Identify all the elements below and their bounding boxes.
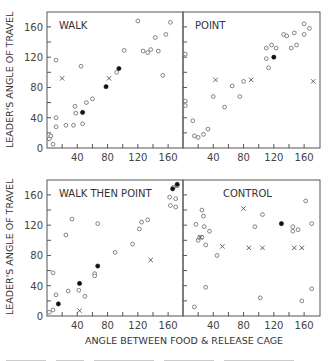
x-tick-label: 40: [71, 320, 84, 331]
panels-group: 408012016004080120160WALK4080120160POINT…: [24, 12, 320, 331]
data-point-open: [302, 22, 306, 26]
x-tick-label: 160: [295, 320, 314, 331]
figure: 408012016004080120160WALK4080120160POINT…: [0, 0, 332, 361]
data-point-open: [204, 243, 208, 247]
data-point-open: [258, 296, 262, 300]
data-point-open: [122, 48, 126, 52]
data-point-open: [264, 57, 268, 61]
data-point-open: [295, 43, 299, 47]
data-point-open: [202, 132, 206, 136]
panel-title: WALK: [59, 20, 88, 31]
data-point-open: [242, 79, 246, 83]
data-point-filled: [77, 281, 81, 285]
data-point-open: [261, 213, 265, 217]
data-point-open: [202, 225, 206, 229]
data-point-open: [291, 229, 295, 233]
x-tick-label: 160: [295, 152, 314, 163]
x-tick-label: 120: [264, 320, 283, 331]
data-point-open: [174, 205, 178, 209]
data-point-open: [230, 84, 234, 88]
panel-title: CONTROL: [223, 188, 272, 199]
data-point-cross: [60, 76, 64, 80]
y-axis-label-bottom: LEADER'S ANGLE OF TRAVEL: [4, 178, 15, 315]
data-point-filled: [96, 264, 100, 268]
y-tick-label: 0: [37, 143, 43, 154]
data-point-open: [296, 228, 300, 232]
data-point-cross: [107, 76, 111, 80]
data-point-open: [91, 97, 95, 101]
data-point-cross: [260, 246, 264, 250]
data-point-open: [64, 123, 68, 127]
data-point-cross: [300, 246, 304, 250]
data-point-filled: [171, 187, 175, 191]
data-point-cross: [249, 78, 253, 82]
data-point-cross: [292, 246, 296, 250]
y-tick-label: 120: [24, 220, 43, 231]
data-point-open: [136, 19, 140, 23]
data-point-open: [174, 197, 178, 201]
data-point-filled: [80, 110, 84, 114]
panel-control: 4080120160CONTROL: [183, 180, 320, 331]
data-point-cross: [247, 246, 251, 250]
data-point-open: [54, 125, 58, 129]
x-tick-label: 40: [207, 320, 220, 331]
data-point-open: [64, 233, 68, 237]
y-tick-label: 0: [37, 311, 43, 322]
y-tick-label: 40: [30, 281, 43, 292]
data-point-open: [192, 134, 196, 138]
data-point-open: [164, 33, 168, 37]
data-point-open: [264, 46, 268, 50]
x-tick-label: 80: [237, 152, 250, 163]
data-point-open: [83, 294, 87, 298]
data-point-open: [196, 136, 200, 140]
data-point-filled: [104, 85, 108, 89]
data-point-open: [310, 222, 314, 226]
data-point-open: [292, 31, 296, 35]
data-point-open: [72, 123, 76, 127]
y-tick-label: 40: [30, 113, 43, 124]
data-point-open: [77, 288, 81, 292]
x-tick-label: 160: [159, 320, 178, 331]
x-tick-label: 40: [71, 152, 84, 163]
data-point-open: [202, 214, 206, 218]
data-point-open: [153, 36, 157, 40]
data-point-open: [84, 101, 88, 105]
data-point-open: [93, 274, 97, 278]
x-tick-label: 120: [128, 152, 147, 163]
data-point-open: [146, 51, 150, 55]
y-tick-label: 120: [24, 52, 43, 63]
data-point-open: [211, 95, 215, 99]
data-point-open: [140, 220, 144, 224]
panel-walk: 408012016004080120160WALK: [24, 12, 183, 163]
data-point-open: [291, 225, 295, 229]
data-point-open: [238, 95, 242, 99]
data-point-open: [54, 293, 58, 297]
data-point-open: [146, 218, 150, 222]
data-point-open: [183, 99, 187, 103]
data-point-open: [47, 310, 51, 314]
data-point-open: [208, 229, 212, 233]
panel-frame: [47, 180, 183, 316]
data-point-open: [289, 46, 293, 50]
panel-title: POINT: [195, 20, 226, 31]
data-point-filled: [279, 222, 283, 226]
data-point-open: [223, 105, 227, 109]
y-tick-label: 80: [30, 250, 43, 261]
x-tick-label: 80: [101, 152, 114, 163]
data-point-open: [115, 70, 119, 74]
data-point-open: [66, 289, 70, 293]
data-point-open: [168, 195, 172, 199]
data-point-open: [96, 222, 100, 226]
panel-frame: [47, 12, 183, 148]
data-point-open: [204, 285, 208, 289]
y-axis-label-top: LEADER'S ANGLE OF TRAVEL: [4, 11, 15, 148]
data-point-filled: [117, 66, 121, 70]
x-tick-label: 80: [237, 320, 250, 331]
data-point-open: [310, 287, 314, 291]
data-point-open: [149, 48, 153, 52]
data-point-open: [74, 111, 78, 115]
x-axis-label: ANGLE BETWEEN FOOD & RELEASE CAGE: [85, 335, 283, 346]
data-point-open: [206, 127, 210, 131]
data-point-open: [168, 20, 172, 24]
data-point-open: [156, 49, 160, 53]
